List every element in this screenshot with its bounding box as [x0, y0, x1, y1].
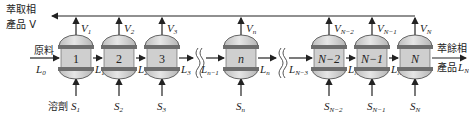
- solvent-stream-label: Sn: [236, 100, 246, 114]
- vapor-label: V3: [167, 22, 178, 36]
- vessel-band-bottom: [58, 67, 94, 71]
- extract-product-label-1: 萃取相: [6, 3, 36, 15]
- liquid-out-label: L3: [180, 63, 191, 77]
- vessel-band-top: [354, 45, 390, 49]
- vessel-band-top: [144, 45, 180, 49]
- stage-1[interactable]: 1V1S1L1: [58, 18, 105, 114]
- vessel-band-top: [101, 45, 137, 49]
- solvent-label: 溶劑: [48, 100, 68, 112]
- stage-number: 3: [159, 52, 165, 66]
- stage-n[interactable]: nVnSnLnLn−1: [200, 18, 270, 114]
- vapor-label: VN: [420, 22, 432, 36]
- stage-3[interactable]: 3V3S3L3: [144, 18, 191, 114]
- stage-number: N−1: [360, 52, 383, 66]
- vessel-top-dome: [102, 35, 136, 46]
- vessel-top-dome: [224, 35, 258, 46]
- vessel-band-top: [58, 45, 94, 49]
- stage-number: 2: [116, 52, 122, 66]
- vessel-band-bottom: [397, 67, 433, 71]
- stage-2[interactable]: 2V2S2L2: [101, 18, 148, 114]
- vapor-label: VN−2: [334, 22, 354, 36]
- liquid-in-label: LN−3: [288, 63, 309, 77]
- extract-product-label-2: 產品 V: [6, 18, 36, 30]
- vessel-band-bottom: [101, 67, 137, 71]
- stage-N[interactable]: NVNSN: [397, 18, 433, 114]
- vessel-band-bottom: [354, 67, 390, 71]
- cross-current-extraction-diagram: 1V1S1L12V2S2L23V3S3L3nVnSnLnLn−1N−2VN−2S…: [0, 0, 469, 124]
- raffinate-product-label-1: 萃餘相: [437, 42, 467, 54]
- vapor-label: V2: [124, 22, 135, 36]
- stage-number: N−2: [317, 52, 340, 66]
- vapor-label: V1: [81, 22, 91, 36]
- solvent-stream-label: S2: [114, 100, 124, 114]
- raffinate-product-label-2: 產品LN: [437, 61, 469, 75]
- vessel-top-dome: [312, 35, 346, 46]
- vapor-label: Vn: [246, 22, 257, 36]
- vessel-band-top: [311, 45, 347, 49]
- stage-number: N: [410, 52, 420, 66]
- stage-number: n: [238, 52, 244, 66]
- vessel-band-bottom: [223, 67, 259, 71]
- break-symbol-2: [279, 48, 287, 78]
- vessel-top-dome: [398, 35, 432, 46]
- stage-N-2[interactable]: N−2VN−2SN−2LN−2LN−3: [288, 18, 368, 114]
- vessel-top-dome: [145, 35, 179, 46]
- vapor-label: VN−1: [377, 22, 397, 36]
- liquid-out-label: Ln: [259, 63, 270, 77]
- stage-number: 1: [73, 52, 79, 66]
- feed-stream-label: L0: [35, 63, 46, 77]
- liquid-in-label: Ln−1: [200, 63, 219, 77]
- solvent-stream-label: S1: [71, 100, 80, 114]
- solvent-stream-label: SN−2: [324, 100, 343, 114]
- vessel-top-dome: [355, 35, 389, 46]
- solvent-stream-label: SN: [410, 100, 421, 114]
- feed-label: 原料: [34, 44, 54, 56]
- vessel-band-top: [223, 45, 259, 49]
- vessel-top-dome: [59, 35, 93, 46]
- solvent-stream-label: SN−1: [367, 100, 385, 114]
- vessel-band-bottom: [311, 67, 347, 71]
- solvent-stream-label: S3: [157, 100, 167, 114]
- vessel-band-top: [397, 45, 433, 49]
- vessel-band-bottom: [144, 67, 180, 71]
